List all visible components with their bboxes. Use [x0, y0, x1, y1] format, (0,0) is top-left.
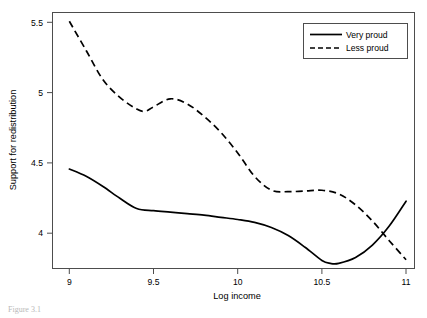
x-tick-label-11: 11 [402, 277, 411, 287]
figure-container: 5.5 5 4.5 4 Support for redistribution 9… [0, 0, 427, 318]
y-tick-label-5: 5 [38, 88, 43, 98]
legend-label-less-proud: Less proud [346, 43, 389, 53]
y-tick-label-4.5: 4.5 [31, 158, 43, 168]
x-tick-label-9: 9 [67, 277, 72, 287]
y-axis-ticks [47, 22, 53, 233]
x-tick-label-10.5: 10.5 [314, 277, 331, 287]
x-tick-label-10: 10 [233, 277, 243, 287]
x-axis-title: Log income [213, 291, 261, 301]
line-chart: 5.5 5 4.5 4 Support for redistribution 9… [0, 0, 427, 318]
chart-legend: Very proud Less proud [304, 24, 408, 59]
y-tick-label-4: 4 [38, 228, 43, 238]
legend-label-very-proud: Very proud [346, 30, 388, 40]
y-tick-label-5.5: 5.5 [31, 18, 43, 28]
figure-caption: Figure 3.1 [8, 305, 41, 314]
y-axis-title: Support for redistribution [8, 90, 18, 191]
x-axis-ticks [69, 269, 406, 275]
x-tick-label-9.5: 9.5 [148, 277, 160, 287]
series-line-very-proud [69, 169, 406, 264]
